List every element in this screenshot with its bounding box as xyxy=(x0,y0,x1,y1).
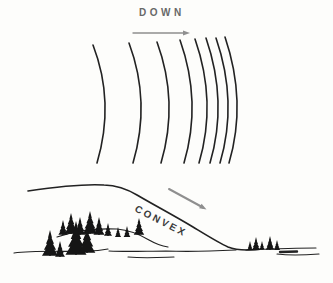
evergreen-tree-icon xyxy=(260,241,265,249)
evergreen-tree-icon xyxy=(266,236,275,250)
tree-cluster-left-back xyxy=(58,211,144,237)
slope-arrow-icon xyxy=(169,189,207,209)
tree-cluster-right xyxy=(247,236,280,250)
contour-lines xyxy=(93,37,237,163)
evergreen-tree-icon xyxy=(252,237,260,250)
evergreen-tree-icon xyxy=(134,218,145,235)
evergreen-tree-icon xyxy=(247,241,253,250)
evergreen-tree-icon xyxy=(93,217,104,235)
evergreen-tree-icon xyxy=(42,230,58,256)
figure-contour-convex-slope: DOWN CONVEX xyxy=(0,0,333,283)
down-arrow-icon xyxy=(133,30,190,35)
figure-canvas xyxy=(0,0,333,283)
evergreen-tree-icon xyxy=(104,223,112,236)
evergreen-tree-icon xyxy=(55,241,65,257)
evergreen-tree-icon xyxy=(274,240,280,250)
